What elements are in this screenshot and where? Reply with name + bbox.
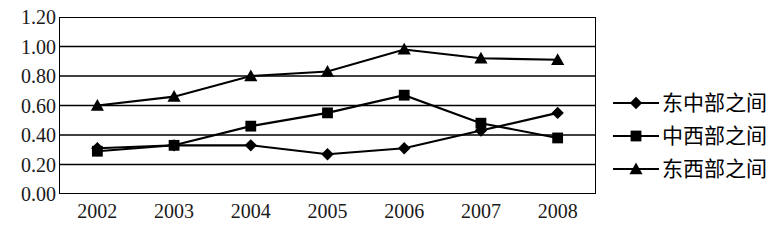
- y-axis-tick-label: 0.00: [2, 184, 56, 204]
- y-axis-tick-label: 0.80: [2, 66, 56, 86]
- legend-label: 东中部之间: [660, 91, 767, 115]
- y-axis-tick-label: 0.60: [2, 96, 56, 116]
- legend-label: 东西部之间: [660, 157, 767, 181]
- data-point-square: [245, 121, 256, 132]
- legend-label: 中西部之间: [660, 124, 767, 148]
- y-axis-tick-label: 1.00: [2, 37, 56, 57]
- data-point-square: [322, 107, 333, 118]
- x-axis-tick-labels: 2002200320042005200620072008: [59, 200, 596, 230]
- series-line: [97, 95, 557, 151]
- plot-area: [59, 17, 596, 194]
- data-point-diamond: [551, 107, 563, 119]
- legend-item-triangle[interactable]: 东西部之间: [612, 152, 776, 185]
- x-axis-tick-label: 2007: [446, 200, 516, 222]
- data-point-diamond: [321, 148, 333, 160]
- legend-marker-diamond-icon: [612, 93, 660, 113]
- y-axis-tick-labels: 0.000.200.400.600.801.001.20: [0, 0, 56, 239]
- x-axis-tick-label: 2008: [523, 200, 593, 222]
- x-axis-tick-label: 2005: [293, 200, 363, 222]
- y-axis-tick-label: 1.20: [2, 7, 56, 27]
- data-point-triangle: [398, 43, 411, 55]
- data-point-diamond: [630, 96, 642, 108]
- series-line: [97, 49, 557, 105]
- line-chart-figure: 0.000.200.400.600.801.001.20 20022003200…: [0, 0, 776, 239]
- data-point-diamond: [398, 142, 410, 154]
- data-point-diamond: [245, 139, 257, 151]
- data-point-square: [552, 133, 563, 144]
- data-point-square: [169, 140, 180, 151]
- data-point-square: [476, 118, 487, 129]
- chart-legend: 东中部之间中西部之间东西部之间: [612, 86, 776, 185]
- legend-item-square[interactable]: 中西部之间: [612, 119, 776, 152]
- data-point-square: [631, 130, 642, 141]
- series-square: [92, 90, 563, 157]
- plot-series-svg: [59, 17, 596, 194]
- x-axis-tick-label: 2003: [139, 200, 209, 222]
- data-point-square: [399, 90, 410, 101]
- x-axis-tick-label: 2004: [216, 200, 286, 222]
- y-axis-tick-label: 0.40: [2, 125, 56, 145]
- legend-item-diamond[interactable]: 东中部之间: [612, 86, 776, 119]
- data-point-square: [92, 146, 103, 157]
- legend-marker-square-icon: [612, 126, 660, 146]
- y-axis-tick-label: 0.20: [2, 155, 56, 175]
- x-axis-tick-label: 2002: [62, 200, 132, 222]
- x-axis-tick-label: 2006: [369, 200, 439, 222]
- legend-marker-triangle-icon: [612, 159, 660, 179]
